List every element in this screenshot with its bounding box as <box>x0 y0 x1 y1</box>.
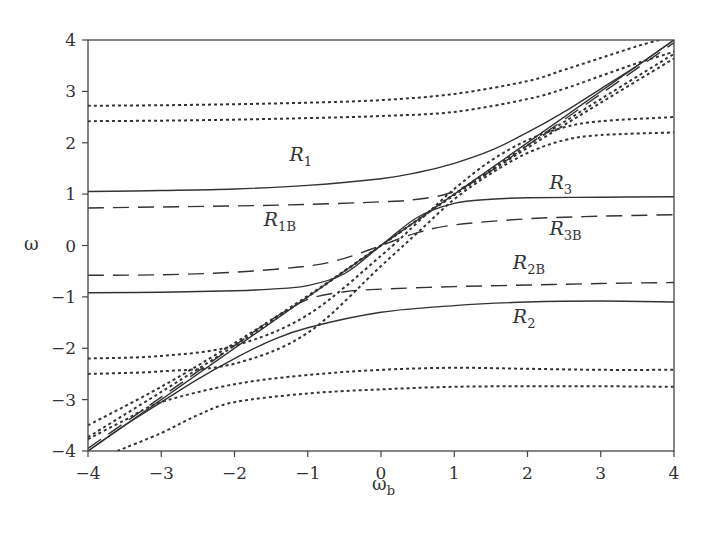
y-tick-label: −2 <box>51 338 76 358</box>
x-tick-label: −4 <box>75 463 100 483</box>
y-tick-label: 0 <box>65 236 76 256</box>
x-tick-label: 3 <box>595 463 606 483</box>
x-axis-label: ωb <box>372 473 395 498</box>
curves-group <box>88 40 674 451</box>
series-r2b <box>88 282 674 448</box>
y-tick-label: −3 <box>51 390 76 410</box>
series-dotted-lower-1 <box>88 368 674 439</box>
series-dotted-mid-upper-2 <box>88 132 674 373</box>
curve-label-r2b: R2B <box>512 251 545 277</box>
curve-label-r2: R2 <box>512 305 536 331</box>
curve-label-r1: R1 <box>288 143 312 169</box>
curve-label-r1b: R1B <box>263 208 296 234</box>
series-r1 <box>88 40 674 192</box>
y-tick-label: 1 <box>65 184 76 204</box>
x-tick-label: −1 <box>295 463 320 483</box>
y-tick-label: −4 <box>51 441 76 461</box>
x-tick-label: −3 <box>149 463 174 483</box>
x-tick-label: 4 <box>669 463 680 483</box>
y-axis-ticks: −4−3−2−101234 <box>51 30 88 461</box>
x-tick-label: 1 <box>449 463 460 483</box>
curve-label-r3b: R3B <box>548 217 581 243</box>
series-r1b <box>88 43 674 208</box>
y-tick-label: 4 <box>65 30 76 50</box>
x-tick-label: 2 <box>522 463 533 483</box>
chart: −4−3−2−101234 −4−3−2−101234 R1R1BR3R3BR2… <box>0 0 712 539</box>
series-dotted-upper-1 <box>88 40 659 106</box>
series-dotted-lower-2 <box>117 386 674 451</box>
series-r2 <box>88 301 674 451</box>
y-tick-label: 3 <box>65 81 76 101</box>
y-tick-label: −1 <box>51 287 76 307</box>
y-axis-label: ω <box>24 233 39 254</box>
curve-label-r3: R3 <box>548 171 572 197</box>
y-tick-label: 2 <box>65 133 76 153</box>
series-dotted-mid-upper-1 <box>88 117 674 358</box>
x-tick-label: −2 <box>222 463 247 483</box>
